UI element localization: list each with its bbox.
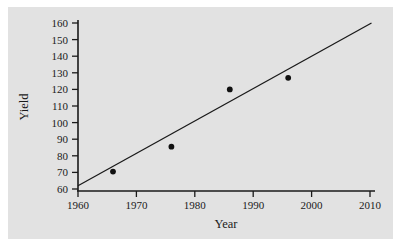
data-point-1966 — [110, 169, 116, 175]
chart-figure: 160 150 140 130 120 110 100 90 80 70 60 … — [0, 0, 401, 247]
x-tick-label-1970: 1970 — [125, 199, 148, 211]
regression-line — [78, 23, 372, 186]
y-tick-label-120: 120 — [52, 83, 69, 95]
y-tick-label-70: 70 — [57, 166, 69, 178]
y-tick-label-140: 140 — [52, 50, 69, 62]
y-axis-tick-labels: 160 150 140 130 120 110 100 90 80 70 60 — [52, 17, 69, 195]
x-tick-label-1980: 1980 — [184, 199, 207, 211]
data-point-1986 — [227, 87, 233, 93]
y-tick-label-80: 80 — [57, 150, 69, 162]
y-tick-label-150: 150 — [52, 34, 69, 46]
x-axis-title: Year — [214, 217, 238, 231]
y-tick-label-110: 110 — [52, 100, 69, 112]
y-axis-ticks — [72, 23, 78, 189]
x-tick-label-1960: 1960 — [67, 199, 90, 211]
x-tick-label-1990: 1990 — [242, 199, 265, 211]
y-tick-label-100: 100 — [52, 117, 69, 129]
y-tick-label-90: 90 — [57, 133, 69, 145]
scatter-plot: 160 150 140 130 120 110 100 90 80 70 60 … — [0, 0, 401, 247]
data-points — [110, 75, 291, 175]
y-axis-title: Yield — [17, 93, 31, 121]
x-axis-tick-labels: 1960 1970 1980 1990 2000 2010 — [67, 199, 382, 211]
data-point-1976 — [169, 144, 175, 150]
data-point-1996 — [285, 75, 291, 81]
y-tick-label-60: 60 — [57, 183, 69, 195]
x-tick-label-2000: 2000 — [301, 199, 324, 211]
y-tick-label-130: 130 — [52, 67, 69, 79]
x-axis-ticks — [78, 191, 370, 197]
y-tick-label-160: 160 — [52, 17, 69, 29]
x-tick-label-2010: 2010 — [359, 199, 382, 211]
